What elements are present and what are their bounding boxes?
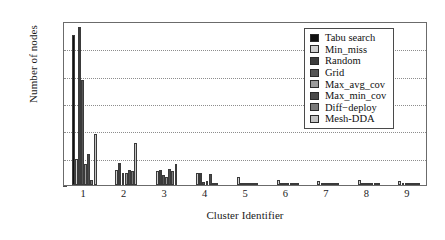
x-tick-label: 2 [104,188,144,199]
legend-item: Min_miss [310,44,386,56]
legend-swatch-icon [310,34,319,42]
legend-item-label: Max_min_cov [325,90,386,101]
bar [134,143,137,185]
legend-item: Random [310,55,386,67]
legend-item: Tabu search [310,32,386,44]
gridline [64,160,426,161]
legend-swatch-icon [310,45,319,53]
x-tick-label: 9 [387,188,427,199]
y-axis-title: Number of nodes [27,0,39,139]
bar [417,183,420,185]
legend-item: Diff−deploy [310,102,386,114]
y-tick-mark [63,186,67,187]
x-tick-label: 7 [306,188,346,199]
legend-swatch-icon [310,69,319,77]
chart-figure: Number of nodes Cluster Identifier 05010… [0,0,445,240]
legend-swatch-icon [310,115,319,123]
x-tick-label: 4 [185,188,225,199]
legend-item-label: Mesh-DDA [325,113,375,124]
x-tick-label: 1 [63,188,103,199]
legend-item-label: Diff−deploy [325,102,377,113]
bar [215,183,218,185]
x-tick-label: 5 [225,188,265,199]
legend-swatch-icon [310,103,319,111]
x-tick-label: 6 [265,188,305,199]
legend-item-label: Random [325,55,361,66]
legend-item-label: Tabu search [325,32,375,43]
x-tick-label: 3 [144,188,184,199]
bar [175,164,178,185]
bar [336,183,339,185]
legend-item: Mesh-DDA [310,113,386,125]
x-axis-title: Cluster Identifier [63,209,427,221]
legend-swatch-icon [310,80,319,88]
bar [377,183,380,185]
x-tick-label: 8 [346,188,386,199]
legend-swatch-icon [310,57,319,65]
legend-item: Max_min_cov [310,90,386,102]
bar [255,183,258,185]
legend-item: Max_avg_cov [310,78,386,90]
legend-swatch-icon [310,92,319,100]
chart-legend: Tabu searchMin_missRandomGridMax_avg_cov… [304,28,394,129]
gridline [64,132,426,133]
legend-item: Grid [310,67,386,79]
legend-item-label: Max_avg_cov [325,79,385,90]
legend-item-label: Min_miss [325,44,367,55]
legend-item-label: Grid [325,67,344,78]
bar [94,134,97,185]
bar [296,183,299,185]
